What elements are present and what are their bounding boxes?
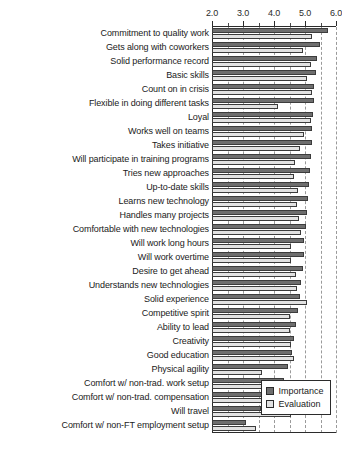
bar-importance [212,28,328,33]
bar-importance [212,84,314,89]
category-label: Commitment to quality work [101,26,209,40]
bar-importance [212,406,261,411]
category-label: Competitive spirit [142,306,209,320]
bar-importance [212,70,316,75]
category-label: Loyal [188,110,209,124]
bar-evaluation [212,328,290,333]
category-label: Desire to get ahead [132,264,209,278]
category-label: Comfort w/ non-trad. compensation [72,390,209,404]
bar-importance [212,294,300,299]
legend-label-importance: Importance [279,385,324,397]
category-label: Handles many projects [120,208,209,222]
bar-row: Loyal [212,111,336,125]
bar-evaluation [212,34,312,39]
bar-row: Takes initiative [212,139,336,153]
bar-row: Up-to-date skills [212,181,336,195]
bar-importance [212,196,308,201]
bar-importance [212,42,320,47]
bar-importance [212,308,298,313]
bar-importance [212,98,314,103]
bar-evaluation [212,286,297,291]
gridline [336,27,337,433]
bar-importance [212,140,312,145]
bar-row: Count on in crisis [212,83,336,97]
category-label: Will travel [171,404,209,418]
category-label: Understands new technologies [89,278,209,292]
category-label: Basic skills [166,68,209,82]
bar-importance [212,420,246,425]
bar-row: Will participate in training programs [212,153,336,167]
bar-evaluation [212,160,295,165]
x-tick-major [305,21,306,26]
bar-evaluation [212,244,291,249]
x-tick-minor [259,23,260,26]
x-tick-minor [228,23,229,26]
bar-evaluation [212,258,291,263]
bar-evaluation [212,314,290,319]
x-tick-label: 2.0 [206,8,218,18]
bar-importance [212,154,311,159]
category-label: Solid performance record [110,54,209,68]
bar-evaluation [212,370,262,375]
bar-evaluation [212,272,296,277]
x-tick-major [243,21,244,26]
bar-importance [212,350,292,355]
category-label: Works well on teams [128,124,209,138]
bar-importance [212,126,312,131]
bar-row: Competitive spirit [212,307,336,321]
bar-evaluation [212,76,307,81]
bar-evaluation [212,342,291,347]
bar-row: Understands new technologies [212,279,336,293]
x-tick-label: 6.0 [330,8,342,18]
category-label: Will work overtime [138,250,209,264]
category-label: Gets along with coworkers [106,40,209,54]
bar-importance [212,56,317,61]
bar-evaluation [212,188,298,193]
bar-row: Solid performance record [212,55,336,69]
x-tick-major [212,21,213,26]
bar-row: Learns new technology [212,195,336,209]
x-tick-label: 4.0 [268,8,280,18]
bar-row: Comfortable with new technologies [212,223,336,237]
category-label: Comfort w/ non-FT employment setup [62,418,210,432]
category-label: Will work long hours [130,236,209,250]
category-label: Good education [147,348,209,362]
category-label: Tries new approaches [123,166,209,180]
bar-evaluation [212,62,311,67]
legend-swatch-evaluation [266,400,274,408]
bar-evaluation [212,230,301,235]
bar-importance [212,238,304,243]
category-label: Will participate in training programs [72,152,209,166]
x-tick-label: 3.0 [237,8,249,18]
bar-importance [212,266,303,271]
chart-legend: Importance Evaluation [261,380,331,415]
legend-label-evaluation: Evaluation [279,398,321,410]
bar-importance [212,252,304,257]
bar-evaluation [212,426,256,431]
category-label: Creativity [172,334,209,348]
bar-row: Flexible in doing different tasks [212,97,336,111]
bar-importance [212,336,294,341]
bar-evaluation [212,104,278,109]
bar-row: Handles many projects [212,209,336,223]
category-label: Physical agility [152,362,209,376]
x-tick-label: 5.0 [299,8,311,18]
x-tick-minor [290,23,291,26]
category-label: Comfortable with new technologies [73,222,209,236]
bar-importance [212,210,307,215]
bar-importance [212,224,306,229]
bar-evaluation [212,174,294,179]
legend-item-importance: Importance [266,385,324,397]
category-label: Ability to lead [157,320,209,334]
category-label: Learns new technology [119,194,209,208]
category-label: Count on in crisis [142,82,209,96]
category-label: Up-to-date skills [146,180,209,194]
x-tick-major [336,21,337,26]
bar-row: Comfort w/ non-FT employment setup [212,419,336,433]
bar-evaluation [212,356,294,361]
bar-row: Good education [212,349,336,363]
bar-row: Desire to get ahead [212,265,336,279]
bar-row: Works well on teams [212,125,336,139]
x-tick-major [274,21,275,26]
bar-row: Solid experience [212,293,336,307]
